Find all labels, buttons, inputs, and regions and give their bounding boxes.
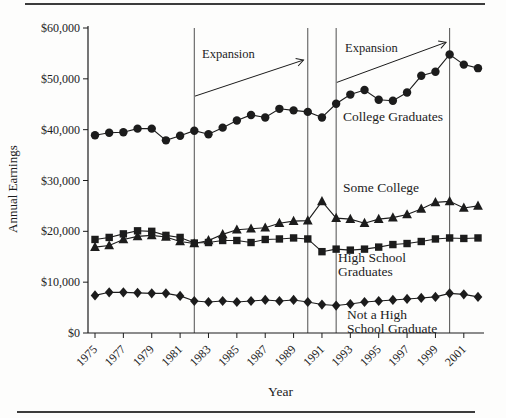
data-point-diamond — [218, 296, 227, 306]
x-tick-label: 1987 — [243, 342, 270, 369]
data-point-square — [432, 235, 439, 242]
data-point-diamond — [303, 297, 312, 307]
data-point-diamond — [289, 295, 298, 305]
x-tick-label: 1993 — [329, 342, 356, 369]
data-point-circle — [460, 60, 468, 68]
data-point-diamond — [204, 297, 213, 307]
data-point-diamond — [176, 291, 185, 301]
data-point-circle — [474, 64, 482, 72]
data-point-square — [389, 241, 396, 248]
bottom-rule — [17, 411, 475, 413]
data-point-triangle — [104, 240, 114, 249]
data-point-square — [219, 237, 226, 244]
data-point-square — [446, 234, 453, 241]
data-point-triangle — [289, 216, 299, 225]
data-point-square — [304, 235, 311, 242]
data-point-triangle — [445, 196, 455, 205]
y-tick-label: $50,000 — [41, 72, 80, 86]
data-point-circle — [445, 50, 453, 58]
data-point-diamond — [474, 292, 483, 302]
data-point-square — [290, 234, 297, 241]
expansion-label-2: Expansion — [345, 41, 398, 55]
data-point-square — [120, 230, 127, 237]
data-point-triangle — [416, 204, 426, 213]
data-point-circle — [133, 124, 141, 132]
series-label-high-school-line2: Graduates — [338, 265, 406, 279]
data-point-triangle — [431, 197, 441, 206]
data-point-circle — [162, 136, 170, 144]
data-point-triangle — [345, 214, 355, 223]
data-point-circle — [190, 126, 198, 134]
data-point-diamond — [261, 295, 270, 305]
data-point-square — [176, 234, 183, 241]
series-college-graduates — [91, 50, 482, 144]
data-point-diamond — [190, 296, 199, 306]
y-tick-label: $40,000 — [41, 123, 80, 137]
data-point-circle — [375, 95, 383, 103]
data-point-diamond — [91, 290, 100, 300]
x-tick-label: 1983 — [187, 342, 214, 369]
data-point-circle — [261, 113, 269, 121]
data-point-diamond — [431, 292, 440, 302]
data-point-circle — [176, 132, 184, 140]
data-point-circle — [304, 108, 312, 116]
data-point-square — [247, 239, 254, 246]
series-label-high-school-graduates: High School Graduates — [338, 251, 406, 279]
x-tick-label: 1979 — [130, 342, 157, 369]
data-point-circle — [389, 96, 397, 104]
data-point-circle — [403, 88, 411, 96]
earnings-line-chart: $0$10,000$20,000$30,000$40,000$50,000$60… — [0, 0, 506, 418]
data-point-diamond — [105, 287, 114, 297]
x-tick-label: 1985 — [215, 342, 242, 369]
data-point-diamond — [247, 296, 256, 306]
data-point-circle — [119, 128, 127, 136]
data-point-diamond — [119, 287, 128, 297]
data-point-circle — [105, 129, 113, 137]
y-tick-label: $20,000 — [41, 224, 80, 238]
series-label-not-hs-line2: School Graduate — [347, 322, 437, 336]
series-label-not-high-school-graduate: Not a High School Graduate — [347, 308, 437, 336]
data-point-square — [105, 234, 112, 241]
data-point-square — [205, 239, 212, 246]
data-point-square — [162, 232, 169, 239]
data-point-diamond — [147, 288, 156, 298]
expansion-arrow-1 — [195, 60, 304, 96]
data-point-square — [262, 236, 269, 243]
data-point-square — [191, 239, 198, 246]
data-point-square — [418, 238, 425, 245]
data-point-diamond — [275, 296, 284, 306]
data-point-circle — [332, 100, 340, 108]
series-label-not-hs-line1: Not a High — [347, 308, 437, 322]
data-point-diamond — [417, 293, 426, 303]
x-tick-label: 1999 — [414, 342, 441, 369]
data-point-diamond — [460, 289, 469, 299]
earnings-by-education-figure: $0$10,000$20,000$30,000$40,000$50,000$60… — [0, 0, 506, 418]
data-point-diamond — [445, 288, 454, 298]
data-point-triangle — [232, 224, 242, 233]
x-tick-label: 1995 — [357, 342, 384, 369]
data-point-square — [474, 234, 481, 241]
data-point-circle — [417, 72, 425, 80]
data-point-triangle — [317, 196, 327, 205]
data-point-square — [403, 240, 410, 247]
y-tick-label: $0 — [68, 326, 80, 340]
x-tick-label: 1975 — [73, 342, 100, 369]
series-label-college-graduates: College Graduates — [343, 110, 443, 124]
data-point-circle — [233, 116, 241, 124]
y-tick-label: $30,000 — [41, 174, 80, 188]
x-tick-label: 1991 — [300, 342, 327, 369]
data-point-diamond — [318, 299, 327, 309]
data-point-circle — [318, 113, 326, 121]
data-point-diamond — [389, 295, 398, 305]
x-tick-label: 1989 — [272, 342, 299, 369]
data-point-triangle — [473, 201, 483, 210]
data-point-circle — [431, 68, 439, 76]
y-axis-title: Annual Earnings — [6, 145, 20, 233]
data-point-triangle — [246, 223, 256, 232]
series-label-some-college: Some College — [343, 181, 419, 195]
expansion-label-1: Expansion — [202, 47, 255, 61]
data-point-circle — [218, 123, 226, 131]
data-point-diamond — [374, 296, 383, 306]
data-point-diamond — [332, 300, 341, 310]
y-tick-label: $10,000 — [41, 275, 80, 289]
